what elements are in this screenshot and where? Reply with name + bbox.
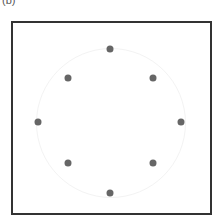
faint-circle-guide bbox=[36, 48, 186, 198]
dot-5 bbox=[65, 160, 72, 167]
dot-6 bbox=[35, 119, 42, 126]
dot-4 bbox=[107, 190, 114, 197]
dot-7 bbox=[65, 75, 72, 82]
dot-0 bbox=[107, 46, 114, 53]
dot-3 bbox=[150, 160, 157, 167]
dot-2 bbox=[178, 119, 185, 126]
panel-label: (b) bbox=[2, 0, 15, 6]
dot-1 bbox=[150, 75, 157, 82]
